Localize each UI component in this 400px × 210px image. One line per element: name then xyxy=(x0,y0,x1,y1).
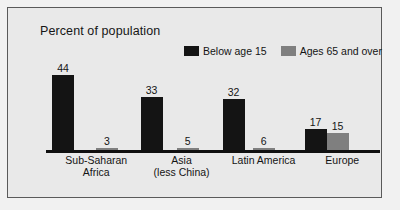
x-axis-line xyxy=(46,150,380,153)
x-axis-label: Latin America xyxy=(223,155,305,178)
bar-item[interactable]: 32 xyxy=(223,54,245,150)
bar[interactable] xyxy=(305,129,327,150)
bar-item[interactable]: 17 xyxy=(305,54,327,150)
bar-item[interactable]: 3 xyxy=(96,54,118,150)
chart-figure: Percent of population Below age 15Ages 6… xyxy=(0,0,400,210)
bar-item[interactable]: 15 xyxy=(327,54,349,150)
x-axis-label-line: Sub-Saharan xyxy=(52,155,141,167)
bar-item[interactable]: 5 xyxy=(177,54,199,150)
bar[interactable] xyxy=(141,97,163,150)
bar-value-label: 5 xyxy=(185,136,191,147)
bar-value-label: 33 xyxy=(146,85,158,96)
bar-value-label: 15 xyxy=(332,121,344,132)
bar-item[interactable]: 44 xyxy=(52,54,74,150)
chart-panel: Percent of population Below age 15Ages 6… xyxy=(7,7,382,198)
x-axis-label: Europe xyxy=(305,155,380,178)
bar-groups: 4433353261715 xyxy=(46,54,380,150)
bar-group: 1715 xyxy=(305,54,380,150)
x-axis-labels: Sub-SaharanAfricaAsia(less China)Latin A… xyxy=(46,155,380,178)
bar-value-label: 32 xyxy=(228,87,240,98)
x-axis-label-line: (less China) xyxy=(141,167,223,179)
bar-group: 443 xyxy=(52,54,141,150)
plot-area: 4433353261715 xyxy=(46,54,380,150)
x-axis-label-line: Latin America xyxy=(223,155,305,167)
bar-value-label: 3 xyxy=(104,136,110,147)
x-axis-label-line: Asia xyxy=(141,155,223,167)
bar-value-label: 44 xyxy=(57,63,69,74)
bar-group: 326 xyxy=(223,54,305,150)
x-axis-label-line: Africa xyxy=(52,167,141,179)
bar-item[interactable]: 33 xyxy=(141,54,163,150)
bar[interactable] xyxy=(52,75,74,150)
bar[interactable] xyxy=(223,99,245,150)
bar-value-label: 17 xyxy=(310,117,322,128)
bar-item[interactable]: 6 xyxy=(253,54,275,150)
bar[interactable] xyxy=(327,133,349,150)
x-axis-label-line: Europe xyxy=(305,155,380,167)
bar-group: 335 xyxy=(141,54,223,150)
x-axis-label: Asia(less China) xyxy=(141,155,223,178)
chart-title: Percent of population xyxy=(40,24,160,38)
x-axis-label: Sub-SaharanAfrica xyxy=(52,155,141,178)
bar-value-label: 6 xyxy=(261,136,267,147)
